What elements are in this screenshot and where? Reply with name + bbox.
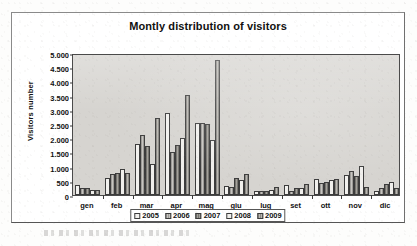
bar xyxy=(155,118,160,195)
bar xyxy=(95,190,100,195)
x-tick-mark xyxy=(222,195,223,199)
legend-label: 2008 xyxy=(234,211,251,220)
y-tick-label: 3.500 xyxy=(50,93,69,102)
chart-frame: Montly distribution of visitors Visitors… xyxy=(11,12,405,223)
bar xyxy=(394,188,399,195)
y-tick-label: 4.500 xyxy=(50,65,69,74)
bar-group xyxy=(192,55,222,195)
bar-group xyxy=(73,55,103,195)
y-tick-label: 1.000 xyxy=(50,164,69,173)
bar xyxy=(244,174,249,195)
bar-group xyxy=(252,55,282,195)
legend-item[interactable]: 2007 xyxy=(196,211,221,220)
x-axis-label: dic xyxy=(380,201,391,210)
legend-item[interactable]: 2009 xyxy=(257,211,282,220)
y-tick-label: 2.000 xyxy=(50,136,69,145)
x-tick-mark xyxy=(133,195,134,199)
bar xyxy=(125,173,130,195)
bar-group xyxy=(282,55,312,195)
x-axis-label: feb xyxy=(111,201,122,210)
plot-area: 05001.0001.5002.0002.5003.0003.5004.0004… xyxy=(72,54,400,196)
bar-group xyxy=(341,55,371,195)
bar xyxy=(185,95,190,195)
y-tick-label: 3.000 xyxy=(50,107,69,116)
bar-group xyxy=(371,55,401,195)
x-tick-mark xyxy=(192,195,193,199)
x-axis-label: gen xyxy=(80,201,93,210)
bar-group xyxy=(103,55,133,195)
x-axis-label: set xyxy=(290,201,301,210)
bar-group xyxy=(162,55,192,195)
legend-item[interactable]: 2006 xyxy=(165,211,190,220)
legend-label: 2009 xyxy=(265,211,282,220)
legend-item[interactable]: 2005 xyxy=(134,211,159,220)
legend-item[interactable]: 2008 xyxy=(226,211,251,220)
bar-group xyxy=(222,55,252,195)
x-axis-label: nov xyxy=(349,201,362,210)
bar xyxy=(304,184,309,195)
bar-group xyxy=(312,55,342,195)
x-tick-mark xyxy=(341,195,342,199)
bar xyxy=(215,60,220,195)
x-tick-mark xyxy=(371,195,372,199)
y-tick-label: 0 xyxy=(65,193,69,202)
x-tick-mark xyxy=(252,195,253,199)
legend-swatch-icon xyxy=(134,213,140,219)
y-tick-label: 5.000 xyxy=(50,51,69,60)
bar xyxy=(274,187,279,195)
legend-label: 2006 xyxy=(173,211,190,220)
chart-legend: 20052006200720082009 xyxy=(130,209,285,222)
bar-group xyxy=(133,55,163,195)
legend-swatch-icon xyxy=(257,213,263,219)
bar xyxy=(364,187,369,195)
legend-label: 2005 xyxy=(142,211,159,220)
y-tick-label: 1.500 xyxy=(50,150,69,159)
y-tick-label: 4.000 xyxy=(50,79,69,88)
y-tick-label: 2.500 xyxy=(50,122,69,131)
y-axis-title: Visitors number xyxy=(26,81,35,141)
chart-title: Montly distribution of visitors xyxy=(12,20,404,32)
bar xyxy=(334,179,339,195)
y-tick-label: 500 xyxy=(56,178,69,187)
x-axis-label: ott xyxy=(321,201,331,210)
legend-label: 2007 xyxy=(204,211,221,220)
legend-swatch-icon xyxy=(165,213,171,219)
x-tick-mark xyxy=(103,195,104,199)
legend-swatch-icon xyxy=(196,213,202,219)
legend-swatch-icon xyxy=(226,213,232,219)
scan-smudge-artifact xyxy=(44,230,194,236)
x-tick-mark xyxy=(282,195,283,199)
y-tick-mark xyxy=(70,197,73,198)
x-tick-mark xyxy=(162,195,163,199)
x-tick-mark xyxy=(312,195,313,199)
